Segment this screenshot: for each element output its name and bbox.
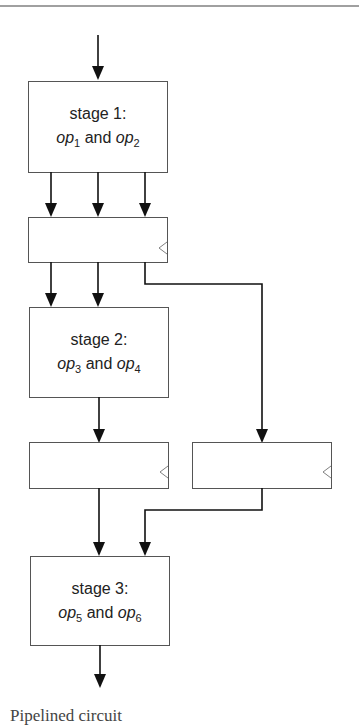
register-2b xyxy=(193,443,332,489)
stage-2-box: stage 2: op3 and op4 xyxy=(30,308,169,398)
input-arrow xyxy=(92,35,104,80)
register-1 xyxy=(29,218,168,263)
figure-caption: Pipelined circuit xyxy=(10,706,122,726)
stage-1-box: stage 1: op1 and op2 xyxy=(29,82,168,173)
stage-1-outputs xyxy=(45,172,151,217)
stage-2-title: stage 2: xyxy=(71,331,128,348)
register-2a xyxy=(30,443,169,489)
stage-3-box: stage 3: op5 and op6 xyxy=(31,557,170,646)
output-arrow xyxy=(94,645,106,688)
stage-1-title: stage 1: xyxy=(70,105,127,122)
stage-2-output xyxy=(93,397,105,443)
register-2-outputs xyxy=(93,488,262,556)
stage-3-title: stage 3: xyxy=(72,580,129,597)
